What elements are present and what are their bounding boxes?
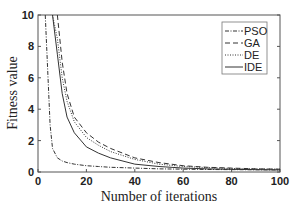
x-tick-label: 80 [225, 175, 237, 187]
y-axis-label: Fitness value [5, 56, 20, 130]
x-tick-label: 0 [35, 175, 41, 187]
legend-label-pso: PSO [244, 25, 268, 37]
legend-label-de: DE [244, 49, 259, 61]
fitness-chart: 0204060801000246810 Number of iterations… [0, 0, 299, 208]
y-tick-label: 10 [22, 9, 34, 21]
legend-label-ide: IDE [244, 61, 262, 73]
x-tick-label: 40 [129, 175, 141, 187]
x-tick-label: 20 [80, 175, 92, 187]
y-tick-label: 2 [28, 135, 34, 147]
x-axis-label: Number of iterations [101, 189, 218, 204]
y-tick-label: 0 [28, 166, 34, 178]
x-tick-label: 100 [271, 175, 289, 187]
legend: PSOGADEIDE [222, 22, 268, 74]
y-tick-label: 4 [28, 103, 35, 115]
y-tick-label: 6 [28, 72, 34, 84]
y-tick-label: 8 [28, 40, 34, 52]
x-tick-label: 60 [177, 175, 189, 187]
legend-label-ga: GA [244, 37, 261, 49]
